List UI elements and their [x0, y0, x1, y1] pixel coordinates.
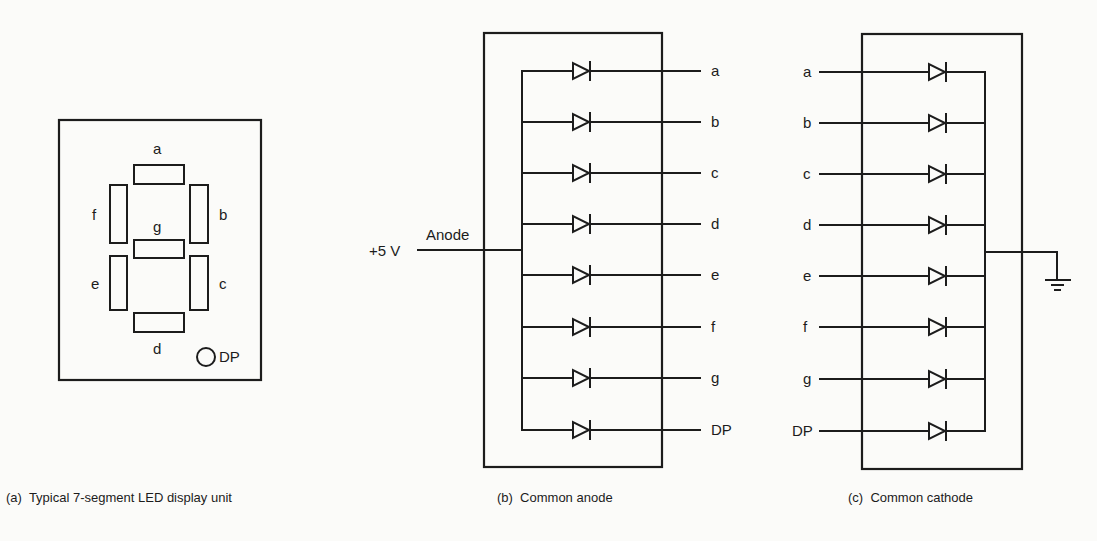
segment-a [134, 165, 184, 184]
diode-icon [573, 319, 589, 335]
cathode-row: DP [792, 422, 985, 440]
input-label: a [803, 63, 812, 80]
input-label: c [803, 165, 811, 182]
output-label: g [711, 369, 719, 386]
input-label: DP [792, 422, 813, 439]
diode-icon [929, 64, 945, 80]
diode-icon [573, 370, 589, 386]
led-display-diagram: a b c d e f g DP +5 V Anode abcdefgDP ab… [0, 0, 1097, 541]
anode-row: b [522, 113, 719, 131]
anode-row: c [522, 164, 719, 182]
supply-label: +5 V [369, 242, 400, 259]
ground-icon [985, 252, 1070, 290]
cathode-row: d [803, 216, 985, 234]
segment-label-g: g [153, 218, 161, 235]
output-label: a [711, 62, 720, 79]
decimal-point-dot [197, 348, 215, 366]
anode-label: Anode [426, 226, 469, 243]
panel-b-common-anode: +5 V Anode abcdefgDP [369, 33, 732, 467]
segment-f [110, 185, 127, 243]
output-label: b [711, 113, 719, 130]
diode-icon [929, 268, 945, 284]
segment-label-f: f [92, 206, 97, 223]
cathode-row: f [803, 318, 985, 336]
diode-icon [929, 115, 945, 131]
diode-icon [929, 423, 945, 439]
output-label: f [711, 318, 716, 335]
segment-label-d: d [153, 340, 161, 357]
diode-icon [573, 216, 589, 232]
caption-panel-b: (b) Common anode [497, 490, 613, 505]
diode-icon [929, 319, 945, 335]
segment-b [190, 185, 208, 243]
segment-e [110, 256, 127, 310]
segment-c [190, 256, 208, 310]
anode-row: DP [522, 421, 732, 439]
diode-icon [573, 63, 589, 79]
dp-label: DP [219, 348, 240, 365]
segment-label-b: b [219, 206, 227, 223]
cathode-row: g [803, 370, 985, 388]
segment-label-a: a [153, 140, 162, 157]
output-label: e [711, 266, 719, 283]
diode-icon [573, 114, 589, 130]
anode-row: d [522, 215, 719, 233]
cathode-row: c [803, 165, 985, 183]
diode-icon [573, 165, 589, 181]
caption-panel-c: (c) Common cathode [848, 490, 973, 505]
anode-row: e [522, 266, 719, 284]
diode-icon [929, 371, 945, 387]
segment-d [134, 313, 184, 332]
anode-row: a [522, 62, 720, 80]
cathode-row: a [803, 63, 985, 81]
segment-g [134, 240, 184, 258]
cathode-row: b [803, 114, 985, 132]
diode-icon [929, 217, 945, 233]
segment-label-e: e [91, 275, 99, 292]
input-label: g [803, 370, 811, 387]
anode-row: g [522, 369, 719, 387]
output-label: d [711, 215, 719, 232]
input-label: d [803, 216, 811, 233]
panel-c-common-cathode: abcdefgDP [792, 34, 1070, 469]
diode-icon [929, 166, 945, 182]
input-label: f [803, 318, 808, 335]
cathode-row: e [803, 267, 985, 285]
diode-icon [573, 267, 589, 283]
anode-row: f [522, 318, 716, 336]
output-label: c [711, 164, 719, 181]
segment-label-c: c [219, 275, 227, 292]
input-label: b [803, 114, 811, 131]
panel-a-seven-segment-unit: a b c d e f g DP [59, 120, 261, 380]
input-label: e [803, 267, 811, 284]
output-label: DP [711, 421, 732, 438]
caption-panel-a: (a) Typical 7-segment LED display unit [6, 490, 232, 505]
diode-icon [573, 422, 589, 438]
